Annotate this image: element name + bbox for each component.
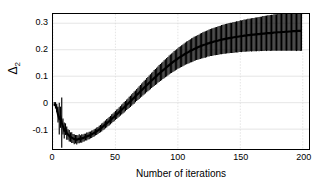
- y-tick-label: 0.3: [35, 17, 48, 27]
- y-axis-tick-labels: -0.100.10.20.3: [0, 13, 48, 150]
- y-tick-label: -0.1: [32, 125, 48, 135]
- plot-area: [52, 13, 310, 150]
- x-tick-label: 0: [49, 152, 54, 162]
- y-tick-label: 0: [43, 98, 48, 108]
- x-tick-label: 200: [296, 152, 311, 162]
- data-series-errorbars: [53, 14, 309, 149]
- x-tick-label: 50: [110, 152, 120, 162]
- y-tick-label: 0.1: [35, 71, 48, 81]
- x-axis-label: Number of iterations: [52, 168, 310, 179]
- figure-container: Δ2 -0.100.10.20.3 Number of iterations 0…: [0, 0, 333, 190]
- x-tick-label: 150: [233, 152, 248, 162]
- y-tick-label: 0.2: [35, 44, 48, 54]
- x-tick-label: 100: [170, 152, 185, 162]
